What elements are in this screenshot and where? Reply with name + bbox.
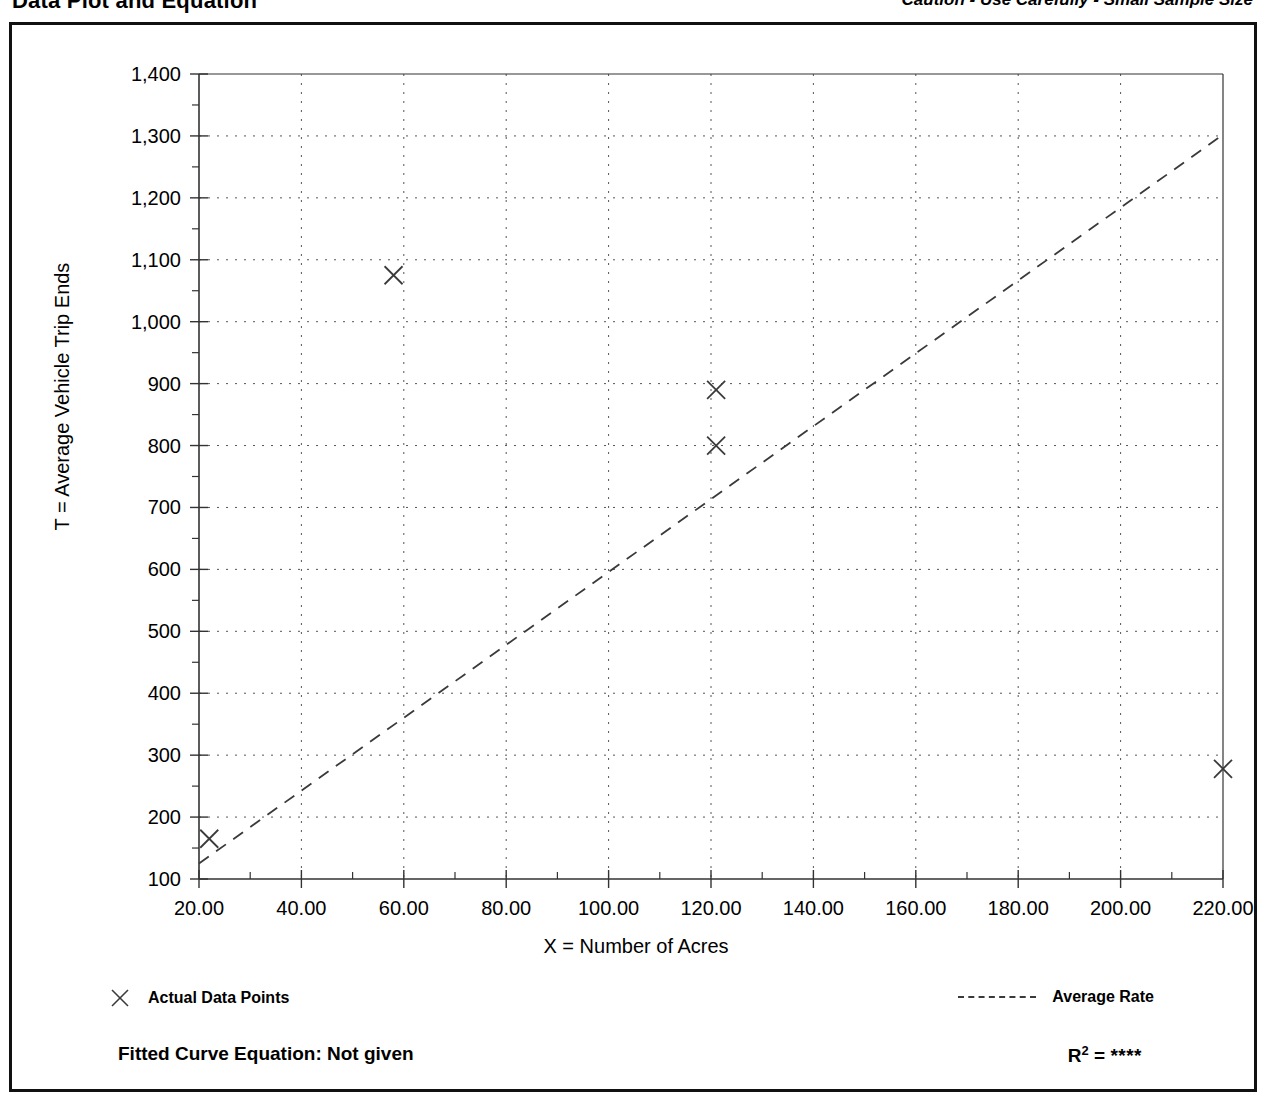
y-axis-tick-label: 1,400 (131, 63, 181, 85)
r-exponent: 2 (1082, 1043, 1089, 1058)
data-point-marker (385, 266, 403, 284)
data-point-marker (707, 381, 725, 399)
x-axis-tick-label: 60.00 (379, 897, 429, 919)
chart-frame: 1002003004005006007008009001,0001,1001,2… (9, 22, 1257, 1092)
y-axis-title: T = Average Vehicle Trip Ends (51, 187, 74, 607)
caution-note: Caution - Use Carefully - Small Sample S… (902, 0, 1253, 10)
legend-label-average-rate: Average Rate (1052, 988, 1154, 1006)
x-axis-title: X = Number of Acres (12, 935, 1260, 958)
y-axis-tick-label: 800 (148, 435, 181, 457)
data-point-marker (200, 830, 218, 848)
x-axis-tick-label: 120.00 (680, 897, 741, 919)
x-axis-tick-label: 220.00 (1192, 897, 1253, 919)
x-axis-tick-label: 100.00 (578, 897, 639, 919)
x-marker-icon (110, 988, 130, 1008)
header-band: Data Plot and Equation Caution - Use Car… (0, 0, 1267, 18)
x-axis-tick-label: 140.00 (783, 897, 844, 919)
y-axis-tick-label: 1,200 (131, 187, 181, 209)
legend-label-data-points: Actual Data Points (148, 989, 289, 1007)
x-axis-tick-label: 20.00 (174, 897, 224, 919)
y-axis-tick-label: 600 (148, 558, 181, 580)
legend-item-average-rate: Average Rate (958, 988, 1154, 1006)
x-axis-tick-label: 80.00 (481, 897, 531, 919)
y-axis-tick-label: 1,300 (131, 125, 181, 147)
x-axis-tick-label: 40.00 (276, 897, 326, 919)
plot-area: 1002003004005006007008009001,0001,1001,2… (12, 25, 1260, 1095)
y-axis-tick-label: 500 (148, 620, 181, 642)
page-title: Data Plot and Equation (12, 0, 257, 14)
x-axis-tick-label: 200.00 (1090, 897, 1151, 919)
chart-legend: Actual Data Points Average Rate (12, 988, 1260, 1022)
y-axis-tick-label: 700 (148, 496, 181, 518)
x-axis-tick-label: 180.00 (988, 897, 1049, 919)
trend-line (199, 135, 1223, 864)
r-symbol: R (1068, 1045, 1082, 1066)
r-value: **** (1110, 1045, 1142, 1066)
equation-row: Fitted Curve Equation: Not given R2 = **… (12, 1043, 1260, 1077)
y-axis-tick-label: 400 (148, 682, 181, 704)
dashed-line-icon (958, 996, 1036, 998)
y-axis-tick-label: 900 (148, 373, 181, 395)
r-equals: = (1089, 1045, 1111, 1066)
y-axis-tick-label: 200 (148, 806, 181, 828)
y-axis-tick-label: 1,100 (131, 249, 181, 271)
fitted-curve-equation: Fitted Curve Equation: Not given (118, 1043, 414, 1065)
r-squared-value: R2 = **** (1068, 1043, 1142, 1067)
x-axis-tick-label: 160.00 (885, 897, 946, 919)
y-axis-tick-label: 100 (148, 868, 181, 890)
y-axis-tick-label: 300 (148, 744, 181, 766)
y-axis-tick-label: 1,000 (131, 311, 181, 333)
legend-item-data-points: Actual Data Points (110, 988, 289, 1008)
